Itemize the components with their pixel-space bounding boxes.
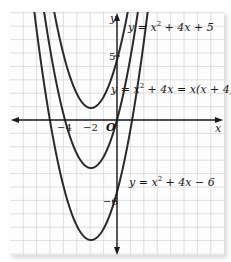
equation-label-bottom: y = x2 + 4x − 6 — [128, 175, 215, 189]
y-tick-label-5: 5 — [109, 51, 115, 62]
origin-label: O — [106, 121, 116, 134]
x-tick-label-neg2: −2 — [83, 122, 98, 133]
x-axis-left-arrow-icon — [11, 117, 19, 123]
equation-label-middle: y = x2 + 4x = x(x + 4) — [110, 82, 231, 96]
y-tick-label-neg6: −6 — [103, 196, 118, 207]
plot-area: y x O −4 −2 5 −6 y = x2 + 4x + 5 y = x2 … — [0, 0, 231, 262]
graph-figure: y x O −4 −2 5 −6 y = x2 + 4x + 5 y = x2 … — [0, 0, 231, 262]
y-axis-label: y — [109, 12, 117, 25]
x-tick-label-neg4: −4 — [57, 122, 72, 133]
x-axis-label: x — [215, 122, 222, 135]
equation-label-top: y = x2 + 4x + 5 — [127, 20, 214, 34]
